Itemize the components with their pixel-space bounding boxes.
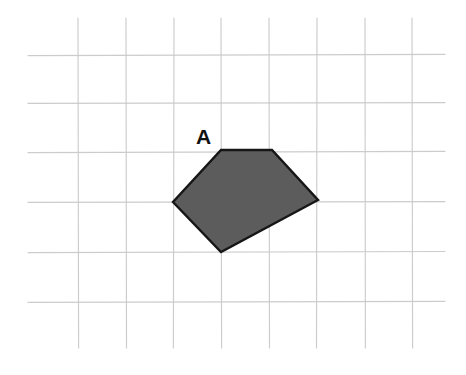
geometry-figure-svg: A (0, 0, 466, 375)
figure-canvas: A (0, 0, 466, 375)
grid-line-horizontal (28, 103, 445, 104)
grid-line-vertical (412, 18, 413, 348)
shape-label-a: A (196, 125, 211, 148)
grid-line-vertical (126, 18, 127, 348)
grid-line-vertical (78, 18, 79, 348)
grid-line-vertical (173, 18, 174, 348)
grid-line-vertical (317, 18, 318, 348)
